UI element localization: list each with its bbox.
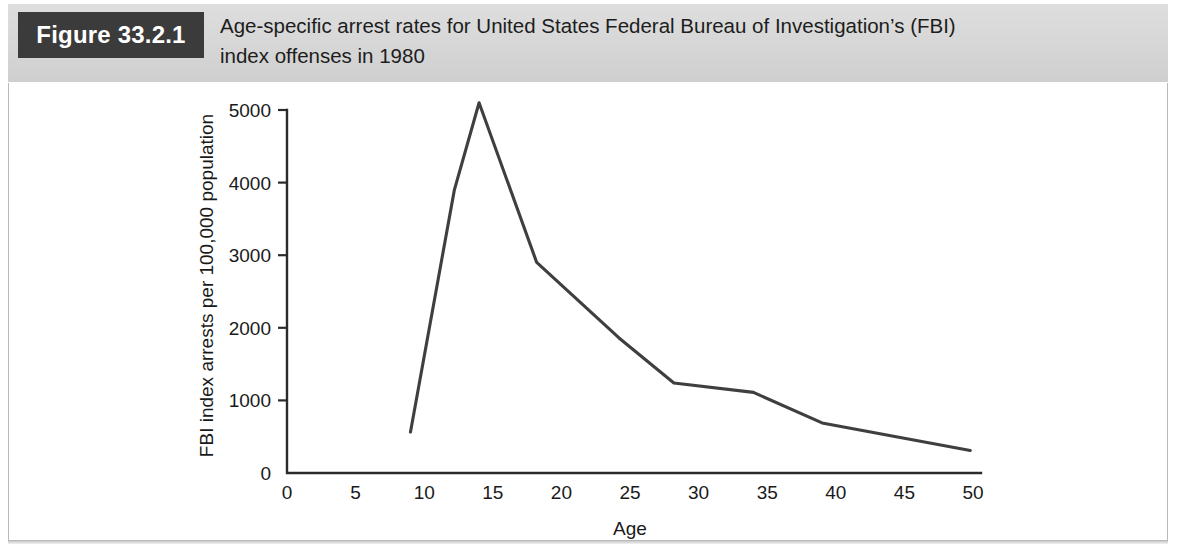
x-tick-label: 0: [282, 482, 293, 503]
x-tick-label: 15: [482, 482, 503, 503]
figure-caption-line-2: index offenses in 1980: [220, 41, 1120, 71]
x-tick-label: 5: [350, 482, 361, 503]
x-tick-label: 10: [414, 482, 435, 503]
x-tick-label: 25: [619, 482, 640, 503]
x-tick-label: 50: [962, 482, 983, 503]
figure-container: Figure 33.2.1 Age-specific arrest rates …: [0, 0, 1186, 556]
figure-number-badge: Figure 33.2.1: [18, 12, 204, 58]
figure-header-band: Figure 33.2.1 Age-specific arrest rates …: [8, 4, 1168, 82]
y-tick-label: 4000: [229, 173, 271, 194]
y-tick-label: 0: [260, 463, 271, 484]
x-tick-label: 35: [757, 482, 778, 503]
x-tick-label: 20: [551, 482, 572, 503]
data-series-line: [410, 103, 970, 451]
figure-caption: Age-specific arrest rates for United Sta…: [220, 11, 1120, 71]
y-tick-label: 3000: [229, 245, 271, 266]
figure-caption-line-1: Age-specific arrest rates for United Sta…: [220, 11, 1120, 41]
x-tick-label: 30: [688, 482, 709, 503]
y-tick-label: 1000: [229, 390, 271, 411]
chart-panel: 0100020003000400050000510152025303540455…: [8, 83, 1168, 541]
y-axis-title: FBI index arrests per 100,000 population: [196, 114, 217, 457]
x-axis-title: Age: [613, 518, 647, 539]
x-tick-label: 40: [825, 482, 846, 503]
y-tick-label: 5000: [229, 100, 271, 121]
line-chart: 0100020003000400050000510152025303540455…: [9, 83, 1167, 539]
y-tick-label: 2000: [229, 318, 271, 339]
chart-axes: [287, 110, 981, 473]
panel-shadow: [8, 541, 1168, 544]
x-tick-label: 45: [894, 482, 915, 503]
